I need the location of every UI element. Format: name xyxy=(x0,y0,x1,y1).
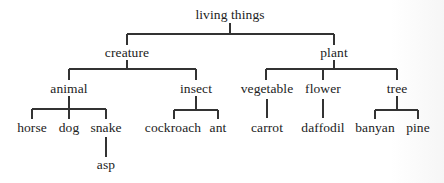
node-snake: snake xyxy=(90,121,121,135)
node-tree: tree xyxy=(387,82,408,96)
node-living-things: living things xyxy=(195,8,264,22)
node-ant: ant xyxy=(210,121,227,135)
node-insect: insect xyxy=(180,82,212,96)
node-daffodil: daffodil xyxy=(301,121,344,135)
node-carrot: carrot xyxy=(251,121,283,135)
node-cockroach: cockroach xyxy=(145,121,201,135)
node-horse: horse xyxy=(17,121,47,135)
node-plant: plant xyxy=(320,46,348,60)
node-creature: creature xyxy=(105,46,149,60)
node-dog: dog xyxy=(59,121,80,135)
tree-diagram: living things creature plant animal inse… xyxy=(0,0,444,183)
node-animal: animal xyxy=(50,82,87,96)
node-vegetable: vegetable xyxy=(241,82,294,96)
node-pine: pine xyxy=(406,121,430,135)
node-asp: asp xyxy=(97,158,115,172)
node-banyan: banyan xyxy=(355,121,395,135)
node-flower: flower xyxy=(305,82,341,96)
